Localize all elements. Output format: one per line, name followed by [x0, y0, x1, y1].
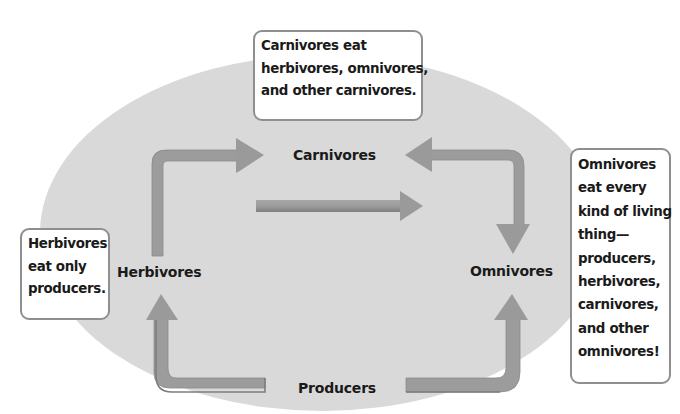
node-omnivores: Omnivores — [470, 263, 553, 279]
callout-line: and other carnivores. — [261, 80, 415, 103]
food-web-diagram: Carnivores Herbivores Omnivores Producer… — [0, 0, 680, 414]
callout-line: producers. — [28, 278, 102, 301]
callout-line: herbivores, omnivores, — [261, 58, 415, 81]
callout-line: Carnivores eat — [261, 35, 415, 58]
callout-line: omnivores! — [578, 340, 663, 363]
callout-omnivores: Omnivores eat every kind of living thing… — [570, 148, 671, 384]
callout-line: producers, — [578, 247, 663, 270]
callout-line: eat every — [578, 176, 663, 199]
node-carnivores: Carnivores — [293, 147, 376, 163]
callout-line: Herbivores — [28, 233, 102, 256]
node-producers: Producers — [298, 380, 376, 396]
callout-line: eat only — [28, 256, 102, 279]
callout-line: thing— — [578, 223, 663, 246]
callout-line: kind of living — [578, 200, 663, 223]
callout-carnivores: Carnivores eat herbivores, omnivores, an… — [253, 30, 423, 121]
callout-line: carnivores, — [578, 293, 663, 316]
node-herbivores: Herbivores — [117, 264, 201, 280]
callout-line: Omnivores — [578, 153, 663, 176]
callout-herbivores: Herbivores eat only producers. — [20, 228, 110, 320]
callout-line: and other — [578, 317, 663, 340]
callout-line: herbivores, — [578, 270, 663, 293]
